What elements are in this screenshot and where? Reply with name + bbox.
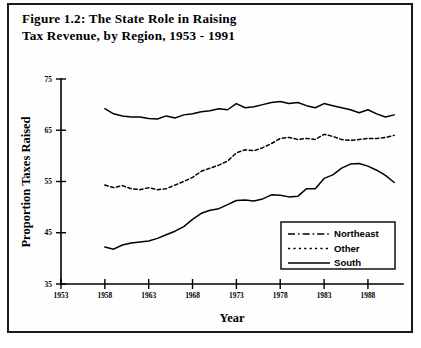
legend-label-other[interactable]: Other	[334, 243, 360, 254]
y-tick-label: 45	[45, 228, 53, 237]
y-tick-label: 55	[45, 177, 53, 186]
chart-plot-area: 3545556575 19531958196319681973197819831…	[0, 0, 421, 348]
chart-legend[interactable]: NortheastOtherSouth	[281, 222, 395, 269]
y-tick-label: 65	[45, 126, 53, 135]
series-line-south	[105, 102, 394, 119]
y-tick-label: 35	[45, 280, 53, 289]
legend-label-south[interactable]: South	[334, 257, 361, 268]
x-tick-label: 1963	[141, 291, 156, 300]
y-axis-title: Proportion Taxes Raised	[19, 116, 33, 247]
legend-label-northeast[interactable]: Northeast	[334, 228, 380, 239]
x-tick-label: 1983	[317, 291, 332, 300]
line-chart-svg: 3545556575 19531958196319681973197819831…	[0, 0, 421, 348]
series-line-other	[105, 134, 394, 189]
y-tick-label: 75	[45, 75, 53, 84]
x-tick-label: 1973	[229, 291, 244, 300]
y-axis: 3545556575	[45, 75, 66, 289]
x-tick-group: 19531958196319681973197819831988	[54, 279, 376, 300]
x-axis: 19531958196319681973197819831988	[54, 279, 403, 300]
x-tick-label: 1988	[361, 291, 376, 300]
x-axis-title: Year	[220, 311, 245, 325]
x-tick-label: 1958	[97, 291, 112, 300]
x-tick-label: 1953	[54, 291, 69, 300]
x-tick-label: 1968	[185, 291, 200, 300]
x-tick-label: 1978	[273, 291, 288, 300]
y-tick-group: 3545556575	[45, 75, 66, 289]
